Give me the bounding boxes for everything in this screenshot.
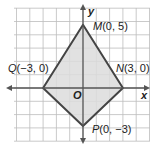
y-axis-label: y	[87, 5, 95, 17]
x-axis-label: x	[140, 89, 148, 101]
coordinate-plane-diagram: y x O M(0, 5) N(3, 0) P(0, −3) Q(−3, 0)	[0, 0, 153, 147]
point-label-m: M(0, 5)	[93, 20, 128, 32]
point-label-n: N(3, 0)	[116, 62, 150, 74]
origin-label: O	[73, 89, 82, 101]
point-label-p: P(0, −3)	[92, 123, 131, 135]
point-label-q: Q(−3, 0)	[8, 62, 49, 74]
